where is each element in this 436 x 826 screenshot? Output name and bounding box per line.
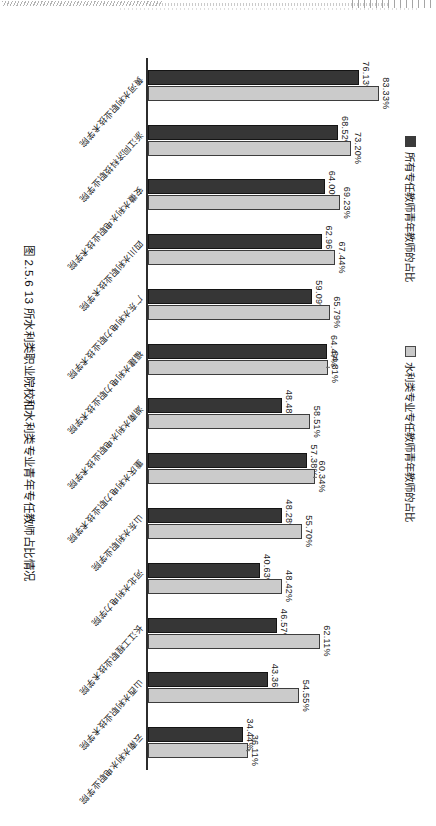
bar-water-major-teachers: 60.34% [148,469,316,484]
bar-all-teachers: 57.38% [148,453,307,468]
legend-swatch-light-icon [405,346,416,357]
bar-value-label: 54.55% [301,680,311,712]
bar-all-teachers: 40.63% [148,563,261,578]
bar-groups: 76.13%83.33%68.52%73.20%64.00%69.23%62.9… [148,58,398,770]
figure-caption: 图 2.5.6 13 所水利类职业院校和水利类专业青年专任教师占比情况 [22,18,38,808]
bar-water-major-teachers: 73.20% [148,141,351,156]
bar-all-teachers: 76.13% [148,70,360,85]
bar-water-major-teachers: 54.55% [148,688,300,703]
bar-all-teachers: 59.09% [148,289,312,304]
bar-value-label: 64.81% [330,351,340,383]
scan-hatch-marks [2,1,162,6]
bar-group: 34.44%36.11% [148,715,398,770]
bar-value-label: 62.11% [322,625,332,657]
scan-artifact-band [0,0,436,12]
bar-group: 68.52%73.20% [148,113,398,168]
legend-item-all-teachers: 所有专任教师青年教师的占比 [403,136,418,282]
plot-area: 76.13%83.33%68.52%73.20%64.00%69.23%62.9… [146,58,398,770]
scan-tick-marks [352,0,432,8]
bar-value-label: 65.79% [332,296,342,328]
rotated-page-content: 所有专任教师青年教师的占比 水利类专业专任教师青年教师的占比 76.13%83.… [12,18,424,808]
legend-label-water-major-teachers: 水利类专业专任教师青年教师的占比 [403,362,418,522]
bar-water-major-teachers: 36.11% [148,743,248,758]
bar-water-major-teachers: 48.42% [148,579,283,594]
bar-group: 40.63%48.42% [148,551,398,606]
bar-group: 48.48%58.51% [148,387,398,442]
bar-group: 64.00%69.23% [148,168,398,223]
bar-all-teachers: 68.52% [148,125,338,140]
bar-all-teachers: 43.36% [148,672,268,687]
bar-value-label: 60.34% [317,461,327,493]
bar-value-label: 58.51% [312,406,322,438]
bar-water-major-teachers: 62.11% [148,634,321,649]
bar-water-major-teachers: 55.70% [148,524,303,539]
category-axis-line [146,58,148,770]
bar-group: 57.38%60.34% [148,441,398,496]
bar-water-major-teachers: 67.44% [148,250,335,265]
bar-value-label: 73.20% [353,132,363,164]
bar-group: 59.09%65.79% [148,277,398,332]
bar-group: 64.47%64.81% [148,332,398,387]
bar-water-major-teachers: 83.33% [148,86,380,101]
bar-group: 76.13%83.33% [148,58,398,113]
bar-value-label: 67.44% [337,242,347,274]
bar-all-teachers: 62.96% [148,234,323,249]
scan-dot-line-2 [120,8,420,10]
bar-value-label: 69.23% [342,187,352,219]
bar-water-major-teachers: 69.23% [148,195,340,210]
bar-value-label: 83.33% [381,77,391,109]
bar-all-teachers: 48.48% [148,398,283,413]
category-label: 山东水利职业学院 [89,513,144,573]
bar-group: 62.96%67.44% [148,222,398,277]
bar-all-teachers: 64.47% [148,344,327,359]
legend-swatch-dark-icon [405,136,416,147]
category-label: 河北水利电力学院 [89,568,144,628]
bar-all-teachers: 48.28% [148,508,282,523]
bar-all-teachers: 34.44% [148,727,244,742]
bar-water-major-teachers: 64.81% [148,360,328,375]
bar-water-major-teachers: 58.51% [148,414,311,429]
legend-label-all-teachers: 所有专任教师青年教师的占比 [403,152,418,282]
bar-group: 43.36%54.55% [148,660,398,715]
bar-value-label: 48.42% [284,570,294,602]
bar-group: 46.57%62.11% [148,606,398,661]
bar-group: 48.28%55.70% [148,496,398,551]
figure-container: 所有专任教师青年教师的占比 水利类专业专任教师青年教师的占比 76.13%83.… [12,18,424,808]
legend-item-water-major-teachers: 水利类专业专任教师青年教师的占比 [403,346,418,522]
bar-all-teachers: 46.57% [148,618,277,633]
bar-value-label: 36.11% [250,735,260,767]
chart-legend: 所有专任教师青年教师的占比 水利类专业专任教师青年教师的占比 [403,136,418,522]
bar-water-major-teachers: 65.79% [148,305,331,320]
bar-all-teachers: 64.00% [148,179,326,194]
bar-value-label: 55.70% [304,515,314,547]
